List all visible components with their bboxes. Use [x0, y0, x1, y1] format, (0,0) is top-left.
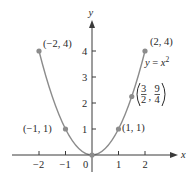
point-m2-4	[36, 48, 41, 53]
x-axis-label: x	[180, 149, 186, 160]
x-tick-label: 2	[143, 159, 148, 170]
y-tick-label: 3	[82, 72, 87, 83]
point-label: (1, 1)	[122, 122, 145, 134]
origin-label: 0	[83, 159, 88, 170]
svg-text:,: ,	[149, 91, 152, 102]
point-origin	[89, 152, 94, 157]
x-tick-label: −2	[33, 159, 44, 170]
y-tick-label: 1	[82, 124, 87, 135]
point-m1-1	[63, 126, 68, 131]
svg-text:2: 2	[141, 94, 146, 105]
x-tick-label: −1	[60, 159, 71, 170]
svg-text:9: 9	[155, 83, 160, 94]
y-axis-label: y	[88, 7, 94, 18]
x-axis-arrow-icon	[170, 152, 178, 158]
parabola-chart: x y −2 −1 0 1 2 1 2 3 4 (−2, 4) (−1, 1) …	[0, 0, 194, 178]
point-2-4	[142, 48, 147, 53]
y-tick-label: 4	[82, 46, 88, 57]
y-ticks	[92, 51, 96, 129]
point-label: (−2, 4)	[43, 38, 72, 50]
fraction-point-label: 3 2 , 9 4	[137, 83, 165, 106]
y-axis-arrow-icon	[89, 20, 95, 28]
point-3-2-9-4	[129, 94, 134, 99]
x-tick-label: 1	[116, 159, 121, 170]
svg-text:4: 4	[155, 94, 161, 105]
point-label: (2, 4)	[150, 36, 173, 48]
point-1-1	[116, 126, 121, 131]
svg-text:3: 3	[141, 83, 146, 94]
equation-label: y = x2	[144, 55, 170, 68]
point-label: (−1, 1)	[23, 123, 52, 135]
y-tick-label: 2	[82, 98, 87, 109]
